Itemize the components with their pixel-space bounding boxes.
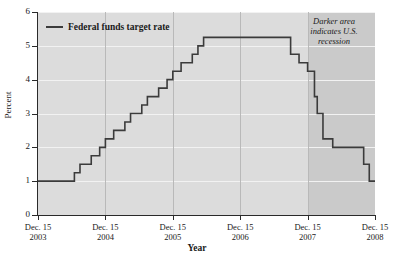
x-axis-tick [375, 215, 376, 220]
y-axis-tick [32, 12, 38, 13]
x-axis-tick-label: Dec. 152006 [205, 222, 275, 242]
y-axis-tick [32, 80, 38, 81]
x-axis-tick [173, 215, 174, 220]
chart-figure: 0123456 Dec. 152003Dec. 152004Dec. 15200… [0, 0, 394, 261]
x-tick-date: Dec. 15 [294, 222, 320, 232]
x-axis-tick-label: Dec. 152005 [138, 222, 208, 242]
recession-annotation: Darker area indicates U.S. recession [296, 16, 372, 46]
x-tick-date: Dec. 15 [362, 222, 388, 232]
x-axis-tick [240, 215, 241, 220]
x-tick-year: 2005 [138, 232, 208, 242]
x-axis-tick [308, 215, 309, 220]
x-tick-date: Dec. 15 [25, 222, 51, 232]
y-axis-tick-label: 1 [0, 176, 30, 185]
x-tick-date: Dec. 15 [92, 222, 118, 232]
x-axis-tick-label: Dec. 152007 [273, 222, 343, 242]
x-axis-line [37, 215, 376, 216]
x-tick-year: 2008 [340, 232, 394, 242]
legend-line-swatch-icon [46, 26, 63, 28]
y-axis-tick-label: 6 [0, 7, 30, 16]
x-axis-tick-label: Dec. 152008 [340, 222, 394, 242]
x-axis-tick [105, 215, 106, 220]
x-tick-year: 2003 [3, 232, 73, 242]
x-tick-date: Dec. 15 [227, 222, 253, 232]
x-axis-tick-label: Dec. 152004 [70, 222, 140, 242]
x-axis-tick-label: Dec. 152003 [3, 222, 73, 242]
y-axis-tick [32, 46, 38, 47]
y-axis-tick [32, 181, 38, 182]
y-axis-tick [32, 147, 38, 148]
x-axis-title: Year [0, 243, 394, 253]
y-axis-title: Percent [3, 75, 13, 135]
x-tick-year: 2006 [205, 232, 275, 242]
annotation-line-2: indicates U.S. [310, 26, 357, 36]
y-axis-tick-label: 5 [0, 41, 30, 50]
chart-legend: Federal funds target rate [46, 22, 170, 32]
annotation-line-3: recession [318, 36, 350, 46]
x-tick-date: Dec. 15 [160, 222, 186, 232]
y-axis-tick-label: 0 [0, 210, 30, 219]
x-tick-year: 2007 [273, 232, 343, 242]
x-axis-tick [38, 215, 39, 220]
y-axis-tick [32, 114, 38, 115]
x-tick-year: 2004 [70, 232, 140, 242]
y-axis-tick-label: 2 [0, 142, 30, 151]
legend-entry-label: Federal funds target rate [68, 22, 170, 32]
annotation-line-1: Darker area [313, 16, 355, 26]
